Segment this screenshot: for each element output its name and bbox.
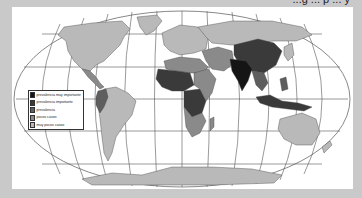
legend-label: prevalencia muy importante (37, 92, 81, 97)
legend-label: prevalencia (37, 107, 55, 112)
world-map-panel: prevalencia muy importante prevalencia i… (12, 7, 353, 189)
legend-swatch (30, 122, 35, 128)
new-zealand (322, 141, 332, 153)
legend-item: prevalencia (30, 107, 82, 113)
greenland (137, 15, 162, 35)
legend-item: muy pocos casos (30, 122, 82, 128)
legend-swatch (30, 100, 35, 106)
legend-label: prevalencia importante (37, 100, 73, 105)
southeast-asia (252, 71, 268, 91)
map-legend: prevalencia muy importante prevalencia i… (28, 90, 84, 130)
madagascar (210, 117, 214, 131)
antarctica (82, 167, 282, 185)
indonesia (256, 95, 312, 111)
legend-swatch (30, 92, 35, 98)
legend-swatch (30, 115, 35, 121)
legend-item: prevalencia muy importante (30, 92, 82, 98)
central-america (82, 69, 104, 89)
australia (278, 113, 320, 145)
legend-label: muy pocos casos (37, 122, 65, 127)
legend-item: pocos casos (30, 115, 82, 121)
legend-label: pocos casos (37, 115, 57, 120)
philippines (280, 77, 288, 91)
legend-item: prevalencia importante (30, 100, 82, 106)
map-title: ...g ... p ... y (0, 0, 362, 5)
legend-swatch (30, 107, 35, 113)
north-america (58, 21, 130, 71)
